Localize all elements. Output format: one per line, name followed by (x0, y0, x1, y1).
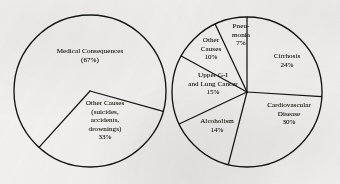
label-line: 24% (256, 61, 318, 70)
label-line: and Lung Cancer (176, 80, 250, 89)
right-pie-divider-cirrhosis-cardio (247, 92, 322, 97)
label-line: Upper G-I (176, 71, 250, 80)
label-line: Other (193, 36, 229, 45)
label-line: Cirrhosis (256, 52, 318, 61)
right-slice-label-other-causes: Other Causes 10% (193, 36, 229, 62)
left-slice-label-other-causes: Other Causes (suicides, accidents, drown… (62, 99, 148, 142)
pie-chart-figure: Medical Consequences (67%) Other Causes … (0, 0, 340, 184)
label-line: Other Causes (62, 99, 148, 108)
label-line: (67%) (21, 56, 159, 65)
label-line: 7% (225, 39, 257, 48)
label-line: (suicides, (62, 108, 148, 117)
label-line: 15% (176, 88, 250, 97)
right-slice-label-alcoholism: Alcoholism 14% (185, 117, 249, 134)
label-line: monia (225, 31, 257, 40)
label-line: Cardiovascular (250, 101, 328, 110)
label-line: Pneu- (225, 22, 257, 31)
label-line: Causes (193, 45, 229, 54)
left-pie-chart (14, 15, 166, 167)
label-line: Medical Consequences (21, 47, 159, 56)
label-line: Alcoholism (185, 117, 249, 126)
label-line: accidents, (62, 116, 148, 125)
label-line: drownings) (62, 125, 148, 134)
right-slice-label-upper-gi-lung-cancer: Upper G-I and Lung Cancer 15% (176, 71, 250, 97)
label-line: 10% (193, 53, 229, 62)
left-slice-label-medical-consequences: Medical Consequences (67%) (21, 47, 159, 64)
right-slice-label-cirrhosis: Cirrhosis 24% (256, 52, 318, 69)
label-line: 30% (250, 118, 328, 127)
label-line: Disease (250, 110, 328, 119)
label-line: 33% (62, 133, 148, 142)
right-slice-label-pneumonia: Pneu- monia 7% (225, 22, 257, 48)
label-line: 14% (185, 126, 249, 135)
pie-charts-svg (0, 0, 340, 184)
right-slice-label-cardiovascular-disease: Cardiovascular Disease 30% (250, 101, 328, 127)
